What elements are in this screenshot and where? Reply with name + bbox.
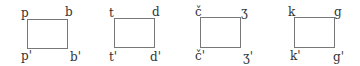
square-4 <box>294 17 335 48</box>
label-top-left: č <box>195 6 202 18</box>
label-bottom-left: k' <box>290 50 301 62</box>
label-top-left: t <box>109 7 114 19</box>
label-bottom-right: d' <box>150 51 161 63</box>
label-top-left: k <box>288 6 295 18</box>
label-top-right: ʒ <box>241 6 248 18</box>
label-top-right: g <box>334 6 342 18</box>
label-bottom-left: č' <box>195 50 205 62</box>
label-top-right: b <box>65 6 73 18</box>
label-bottom-right: b' <box>70 51 81 63</box>
label-top-right: d <box>152 6 160 18</box>
label-bottom-left: p' <box>21 50 32 62</box>
label-bottom-right: g' <box>333 51 344 63</box>
label-bottom-left: t' <box>109 51 117 63</box>
square-2 <box>114 18 155 48</box>
square-3 <box>200 17 241 48</box>
label-top-left: p <box>21 7 29 19</box>
label-bottom-right: ʒ' <box>243 51 253 63</box>
square-1 <box>27 19 68 49</box>
